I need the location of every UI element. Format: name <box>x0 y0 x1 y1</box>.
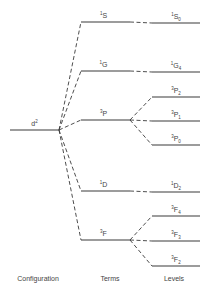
level-label: 3F2 <box>171 256 180 264</box>
level-label: 1D2 <box>171 182 181 190</box>
level-connector-3P1 <box>130 120 152 121</box>
level-label: 3F4 <box>171 206 180 214</box>
level-connector-1S0 <box>130 22 152 23</box>
level-connector-3P2 <box>130 97 152 120</box>
level-connector-1D2 <box>130 191 152 192</box>
level-label: 3P0 <box>171 135 181 143</box>
term-label: 1G <box>100 61 108 69</box>
column-label-terms: Terms <box>100 275 119 283</box>
level-label: 3P2 <box>171 87 181 95</box>
term-connector-1S <box>59 22 81 130</box>
level-connector-3F3 <box>130 240 152 241</box>
level-connector-1G4 <box>130 71 152 72</box>
configuration-label: d2 <box>31 120 37 128</box>
term-label: 1S <box>100 12 107 20</box>
configuration-superscript: 2 <box>35 119 38 124</box>
energy-level-diagram: d2 1S1G3P1D3F 1S01G43P23P13P01D23F43F33F… <box>0 0 207 292</box>
level-label: 1G4 <box>171 62 181 70</box>
term-label: 3P <box>100 110 107 118</box>
level-label: 3P1 <box>171 111 181 119</box>
term-label: 1D <box>100 181 108 189</box>
level-connector-3P0 <box>130 120 152 145</box>
level-connector-3F4 <box>130 216 152 240</box>
column-label-configuration: Configuration <box>17 275 59 283</box>
term-connector-3F <box>59 130 81 240</box>
level-label: 3F3 <box>171 231 180 239</box>
level-label: 1S0 <box>171 13 181 21</box>
term-connector-1D <box>59 130 81 191</box>
diagram-lines <box>0 0 207 292</box>
column-label-levels: Levels <box>164 275 184 283</box>
term-label: 3F <box>100 230 107 238</box>
level-connector-3F2 <box>130 240 152 266</box>
